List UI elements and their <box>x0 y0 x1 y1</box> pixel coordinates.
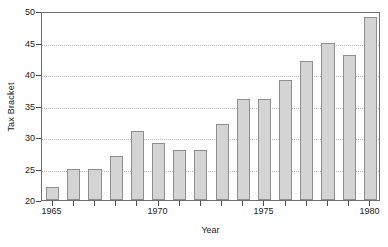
y-tick-label: 25 <box>25 165 35 175</box>
bar <box>364 17 377 200</box>
y-tick-label: 45 <box>25 39 35 49</box>
y-axis-tick-labels: 20253035404550 <box>18 12 38 201</box>
bar <box>110 156 123 200</box>
y-tick-label: 50 <box>25 7 35 17</box>
y-axis-title-text: Tax Bracket <box>6 82 16 131</box>
bar <box>300 61 313 200</box>
y-tick-mark <box>36 107 41 108</box>
bar-chart: Tax Bracket 20253035404550 1965197019751… <box>0 0 388 247</box>
bar <box>173 150 186 200</box>
bar <box>237 99 250 200</box>
y-tick-mark <box>36 12 41 13</box>
y-tick-mark <box>36 75 41 76</box>
bar <box>152 143 165 200</box>
y-tick-label: 40 <box>25 70 35 80</box>
bar <box>258 99 271 200</box>
x-tick-label: 1980 <box>359 206 379 216</box>
x-axis-tick-labels: 1965197019751980 <box>41 206 380 220</box>
x-tick-label: 1975 <box>253 206 273 216</box>
x-tick-label: 1965 <box>42 206 62 216</box>
bar-series <box>42 13 379 200</box>
bar <box>67 169 80 201</box>
y-tick-mark <box>36 201 41 202</box>
y-tick-label: 35 <box>25 102 35 112</box>
bar <box>131 131 144 200</box>
bar <box>88 169 101 201</box>
bar <box>216 124 229 200</box>
plot-area <box>41 12 380 201</box>
y-tick-mark <box>36 44 41 45</box>
y-tick-label: 20 <box>25 196 35 206</box>
y-tick-mark <box>36 138 41 139</box>
y-tick-label: 30 <box>25 133 35 143</box>
x-tick-label: 1970 <box>148 206 168 216</box>
y-tick-mark <box>36 170 41 171</box>
bar <box>46 187 59 200</box>
bar <box>279 80 292 200</box>
bar <box>194 150 207 200</box>
bar <box>321 43 334 201</box>
bar <box>343 55 356 200</box>
x-axis-title: Year <box>41 225 380 235</box>
